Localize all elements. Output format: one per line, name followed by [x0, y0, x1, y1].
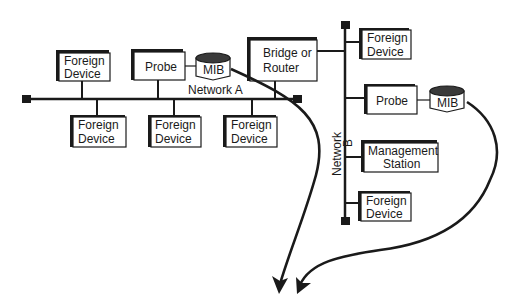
svg-text:MIB: MIB [203, 63, 224, 77]
svg-text:Management: Management [368, 144, 439, 158]
svg-text:Station: Station [383, 157, 420, 171]
management-station: Management Station [361, 140, 439, 172]
network-monitoring-diagram: Network A Network B Foreign Device Probe… [0, 0, 522, 308]
network-a-label: Network A [188, 83, 243, 97]
foreign-device-b-top: Foreign Device [359, 28, 411, 59]
network-b-label-letter: B [341, 139, 355, 147]
svg-text:Bridge or: Bridge or [263, 46, 312, 60]
network-b-label: Network [330, 131, 344, 176]
foreign-device-a-bottom-2: Foreign Device [148, 115, 201, 147]
svg-text:Foreign: Foreign [231, 118, 272, 132]
svg-text:Foreign: Foreign [64, 54, 105, 68]
svg-text:Probe: Probe [376, 94, 408, 108]
svg-text:Probe: Probe [145, 60, 177, 74]
svg-text:Device: Device [231, 132, 268, 146]
svg-text:Device: Device [366, 207, 403, 221]
svg-text:Foreign: Foreign [367, 31, 408, 45]
mib-a-database-icon: MIB [196, 53, 230, 80]
svg-text:Device: Device [78, 132, 115, 146]
svg-text:Device: Device [64, 67, 101, 81]
probe-a: Probe [131, 49, 185, 80]
arrow-mib-a-to-collector [231, 69, 319, 294]
foreign-device-b-bottom: Foreign Device [358, 191, 411, 221]
arrow-head-icon [272, 276, 288, 294]
terminator-a-left [22, 95, 31, 103]
terminator-b-top [341, 21, 350, 29]
svg-text:Foreign: Foreign [78, 118, 119, 132]
svg-text:MIB: MIB [437, 96, 458, 110]
svg-text:Foreign: Foreign [155, 118, 196, 132]
probe-b: Probe [364, 84, 417, 114]
terminator-a-right [293, 95, 302, 103]
network-a-bus [22, 95, 302, 103]
bridge-or-router: Bridge or Router [247, 37, 317, 81]
svg-text:Device: Device [367, 45, 404, 59]
foreign-device-a-bottom-1: Foreign Device [70, 115, 126, 147]
mib-b-database-icon: MIB [430, 86, 464, 112]
svg-text:Device: Device [155, 132, 192, 146]
foreign-device-a-bottom-3: Foreign Device [223, 115, 277, 147]
svg-text:Foreign: Foreign [366, 194, 407, 208]
terminator-b-bottom [341, 217, 350, 225]
svg-text:Router: Router [263, 61, 299, 75]
foreign-device-a-top: Foreign Device [56, 50, 110, 81]
